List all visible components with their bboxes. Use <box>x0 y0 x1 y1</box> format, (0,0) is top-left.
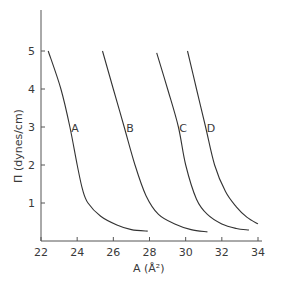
y-tick-label: 4 <box>28 83 35 96</box>
y-ticks: 12345 <box>28 45 45 210</box>
curve-label-d: D <box>207 122 215 135</box>
x-tick-label: 32 <box>215 246 229 259</box>
y-axis-title: Π (dynes/cm) <box>12 109 25 183</box>
curve-d <box>188 51 259 224</box>
x-tick-label: 22 <box>34 246 48 259</box>
curve-label-c: C <box>179 122 187 135</box>
x-tick-label: 24 <box>70 246 84 259</box>
pressure-area-chart: 22242628303234 12345 ABCD A (Å²) Π (dyne… <box>0 0 281 283</box>
curve-c <box>157 53 249 230</box>
y-tick-label: 1 <box>28 197 35 210</box>
x-axis-title: A (Å²) <box>133 262 165 275</box>
curve-label-a: A <box>71 122 79 135</box>
curve-b <box>103 51 208 232</box>
y-tick-label: 2 <box>28 159 35 172</box>
x-tick-label: 26 <box>106 246 120 259</box>
x-ticks: 22242628303234 <box>34 237 265 259</box>
curve-labels: ABCD <box>71 122 215 135</box>
x-tick-label: 34 <box>251 246 265 259</box>
isotherm-curves <box>48 51 258 232</box>
curve-a <box>48 51 148 231</box>
y-tick-label: 5 <box>28 45 35 58</box>
x-tick-label: 30 <box>179 246 193 259</box>
x-tick-label: 28 <box>143 246 157 259</box>
curve-label-b: B <box>126 122 134 135</box>
y-tick-label: 3 <box>28 121 35 134</box>
